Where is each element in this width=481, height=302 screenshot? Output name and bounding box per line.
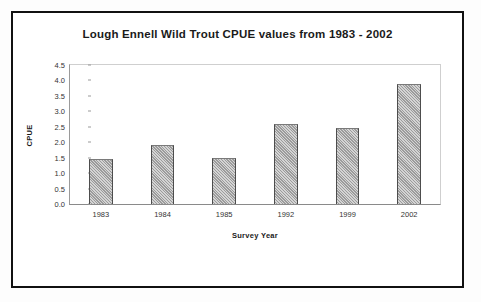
x-tick-label: 1999	[317, 210, 379, 219]
bar-slot	[89, 65, 112, 204]
bar-1985	[212, 158, 235, 204]
chart-frame-border: Lough Ennell Wild Trout CPUE values from…	[11, 11, 464, 288]
bar-slot	[151, 65, 174, 204]
bar-2002	[397, 84, 420, 204]
y-tick-label: 3.5	[55, 91, 65, 100]
bar-1992	[274, 124, 297, 204]
chart-title: Lough Ennell Wild Trout CPUE values from…	[13, 28, 462, 40]
y-tick-label: 1.0	[55, 169, 65, 178]
x-tick-label: 1984	[132, 210, 194, 219]
bar-series	[70, 65, 440, 204]
y-axis-label: CPUE	[25, 106, 34, 166]
y-tick-label: 4.0	[55, 76, 65, 85]
bar-slot	[397, 65, 420, 204]
y-tick-label: 2.5	[55, 122, 65, 131]
bar-slot	[336, 65, 359, 204]
bar-slot	[212, 65, 235, 204]
y-tick-label: 3.0	[55, 107, 65, 116]
bar-slot	[274, 65, 297, 204]
bar-1999	[336, 128, 359, 204]
y-tick-label: 4.5	[55, 61, 65, 70]
x-tick-label: 1992	[255, 210, 317, 219]
y-tick-label: 0.0	[55, 200, 65, 209]
y-tick-label: 0.5	[55, 184, 65, 193]
bar-1984	[151, 145, 174, 204]
x-tick-label: 1983	[70, 210, 132, 219]
x-axis-tick-labels: 198319841985199219992002	[70, 210, 440, 224]
y-tick-label: 1.5	[55, 153, 65, 162]
bar-chart: Lough Ennell Wild Trout CPUE values from…	[13, 13, 462, 286]
bar-1983	[89, 159, 112, 204]
chart-page: Lough Ennell Wild Trout CPUE values from…	[0, 0, 481, 302]
x-axis-label: Survey Year	[69, 231, 441, 240]
x-tick-label: 1985	[193, 210, 255, 219]
y-axis-tick-labels: 0.00.51.01.52.02.53.03.54.04.5	[35, 64, 65, 205]
y-tick-label: 2.0	[55, 138, 65, 147]
x-tick-label: 2002	[378, 210, 440, 219]
